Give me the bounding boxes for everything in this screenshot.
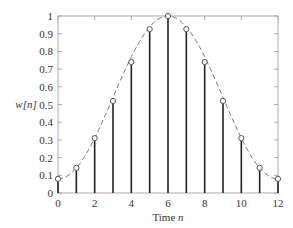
stem-marker [165,13,170,18]
y-tick-label: 0.7 [39,63,53,75]
x-axis: 024681012 [55,16,283,209]
y-tick-label: 0.4 [39,116,53,128]
x-axis-label-text: Time [152,211,178,223]
x-tick-label: 4 [129,197,135,209]
y-tick-label: 0.8 [39,45,53,57]
y-tick-label: 0 [48,187,54,199]
x-tick-label: 6 [165,197,171,209]
stems [55,13,280,193]
stem-marker [92,136,97,141]
y-tick-label: 1 [48,10,54,22]
y-axis-label: w[n] [15,98,36,110]
y-tick-label: 0.3 [39,134,53,146]
x-tick-label: 8 [202,197,208,209]
x-tick-label: 10 [236,197,248,209]
y-tick-label: 0.2 [39,152,53,164]
stem-marker [147,26,152,31]
stem-marker [202,59,207,64]
x-tick-label: 12 [273,197,284,209]
stem-marker [239,136,244,141]
y-tick-label: 0.1 [39,169,53,181]
x-tick-label: 0 [55,197,61,209]
x-axis-label-var: n [178,211,184,223]
x-axis-label: Time n [152,211,184,223]
stem-marker [184,26,189,31]
stem-marker [257,165,262,170]
stem-chart: 00.10.20.30.40.50.60.70.80.91 024681012 … [0,0,293,228]
y-tick-label: 0.5 [39,99,53,111]
y-tick-label: 0.9 [39,28,53,40]
stem-marker [110,98,115,103]
stem-marker [74,165,79,170]
stem-marker [55,176,60,181]
stem-marker [275,176,280,181]
y-tick-label: 0.6 [39,81,53,93]
stem-marker [220,98,225,103]
x-tick-label: 2 [92,197,98,209]
stem-marker [129,59,134,64]
